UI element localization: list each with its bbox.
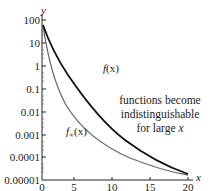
- xtick-label: 10: [107, 181, 119, 191]
- annotation-line: functions become: [119, 94, 200, 106]
- ytick-label: 100: [24, 14, 41, 26]
- x-axis-label: x: [195, 171, 201, 183]
- ytick-label: 1: [35, 60, 41, 72]
- ytick-label: 10: [29, 37, 41, 49]
- xtick-label: 0: [39, 181, 45, 191]
- f-label: f(x): [103, 62, 119, 75]
- ytick-label: 0.01: [21, 106, 40, 118]
- ytick-label: 0.0001: [10, 151, 40, 163]
- ytick-label: 0.001: [15, 129, 40, 141]
- ytick-label: 0.00001: [4, 174, 40, 186]
- ytick-label: 0.1: [26, 83, 40, 95]
- y-axis-label: y: [40, 4, 46, 16]
- f-infinity-label: f∞(x): [66, 125, 87, 139]
- annotation-line: indistinguishable: [121, 108, 200, 121]
- annotation-line: for large x: [136, 122, 184, 135]
- xtick-label: 20: [183, 181, 195, 191]
- xtick-label: 15: [145, 181, 157, 191]
- annotation: functions become indistinguishable for l…: [119, 94, 200, 135]
- log-plot: 100 10 1 0.1 0.01 0.001 0.0001 0.00001 0…: [0, 0, 211, 191]
- xtick-label: 5: [71, 181, 77, 191]
